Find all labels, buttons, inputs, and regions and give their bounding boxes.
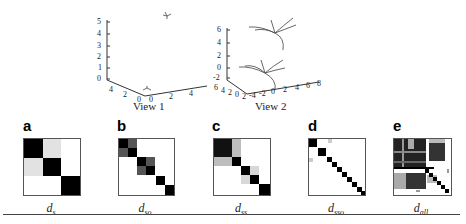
view2-label: View 2 bbox=[255, 100, 286, 112]
y-tick: 2 bbox=[242, 93, 246, 101]
label-sub: sso bbox=[334, 208, 344, 217]
z-tick: 0 bbox=[97, 75, 101, 83]
matrix-dso bbox=[118, 138, 175, 196]
divider-rule bbox=[261, 214, 460, 215]
matrix-dsso bbox=[308, 138, 366, 196]
x-tick: -4 bbox=[249, 92, 256, 100]
view1-plot: 5 4 3 2 1 0 4 2 0 0 2 4 bbox=[95, 0, 225, 110]
z-tick: 2 bbox=[97, 53, 101, 61]
x-tick: 6 bbox=[306, 82, 310, 90]
x-tick: 4 bbox=[295, 84, 299, 92]
tree-glyph-upper bbox=[249, 18, 296, 50]
matrix-ds bbox=[23, 138, 81, 196]
matrix-dall bbox=[393, 138, 452, 196]
view2-plot: 6 4 2 0 -2 6 4 2 0 2 -4 -2 0 2 4 6 8 bbox=[213, 0, 353, 110]
z-tick: 3 bbox=[97, 42, 101, 50]
label-sub: s bbox=[52, 208, 55, 217]
z-tick: 4 bbox=[97, 30, 101, 38]
y-tick: 2 bbox=[228, 89, 232, 97]
panel-e-letter: e bbox=[393, 117, 401, 134]
label-sub: all bbox=[420, 208, 428, 217]
x-tick: -2 bbox=[259, 90, 266, 98]
y-tick: 4 bbox=[221, 87, 225, 95]
tree-glyph-top bbox=[163, 12, 171, 19]
tree-glyph-lower bbox=[239, 60, 285, 90]
divider-rule bbox=[3, 214, 261, 215]
view1-label: View 1 bbox=[133, 100, 164, 112]
z-tick: 0 bbox=[217, 64, 221, 72]
tree-glyph-origin bbox=[143, 86, 151, 90]
y-tick: 0 bbox=[235, 91, 239, 99]
z-tick: 6 bbox=[217, 26, 221, 34]
label-sub: so bbox=[144, 208, 151, 217]
x-tick: 0 bbox=[271, 88, 275, 96]
view1-axes bbox=[95, 0, 225, 110]
z-tick: 1 bbox=[98, 64, 102, 72]
panel-b-letter: b bbox=[117, 117, 126, 134]
x-tick: 8 bbox=[317, 80, 321, 88]
matrix-dss bbox=[213, 138, 271, 196]
z-tick: -2 bbox=[213, 74, 220, 82]
z-tick: 2 bbox=[217, 52, 221, 60]
z-tick: 5 bbox=[97, 18, 101, 26]
z-tick: 4 bbox=[217, 39, 221, 47]
x-tick: 4 bbox=[189, 90, 193, 98]
label-sub: ss bbox=[241, 208, 247, 217]
panel-a-letter: a bbox=[23, 117, 31, 134]
x-tick: 2 bbox=[169, 93, 173, 101]
y-tick: 6 bbox=[214, 84, 218, 92]
y-tick: 4 bbox=[109, 86, 113, 94]
y-tick: 2 bbox=[123, 91, 127, 99]
panel-c-letter: c bbox=[212, 117, 220, 134]
panel-d-letter: d bbox=[308, 117, 317, 134]
x-tick: 2 bbox=[283, 86, 287, 94]
